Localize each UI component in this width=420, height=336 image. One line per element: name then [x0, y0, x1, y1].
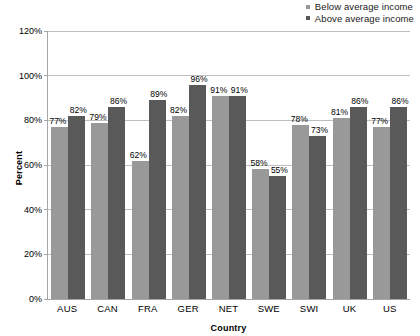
bar-can-above-average[interactable]: 86% [108, 107, 125, 299]
bar-ger-above-average[interactable]: 96% [189, 85, 206, 299]
bars-layer: 77%82%79%86%62%89%82%96%91%91%58%55%78%7… [48, 31, 410, 299]
legend-swatch-below-average-income [306, 5, 310, 9]
bar-ger-below-average[interactable]: 82% [172, 116, 189, 299]
bar-value-label: 58% [250, 158, 267, 168]
bar-group-swe: 58%55% [249, 31, 289, 299]
x-axis-label-ger: GER [168, 303, 208, 314]
y-axis-tick-label: 80% [24, 115, 42, 125]
bar-value-label: 55% [271, 165, 288, 175]
bar-aus-above-average[interactable]: 82% [68, 116, 85, 299]
x-axis-tick-labels: AUSCANFRAGERNETSWESWIUKUS [47, 303, 410, 314]
bar-net-above-average[interactable]: 91% [229, 96, 246, 299]
bar-value-label: 62% [130, 150, 147, 160]
bar-group-ger: 82%96% [169, 31, 209, 299]
plot-area-wrapper: 0%20%40%60%80%100%120% 77%82%79%86%62%89… [47, 31, 410, 300]
x-axis-label-net: NET [208, 303, 248, 314]
bar-value-label: 91% [231, 85, 248, 95]
bar-swi-below-average[interactable]: 78% [292, 125, 309, 299]
bar-value-label: 78% [291, 114, 308, 124]
bar-value-label: 86% [392, 96, 409, 106]
plot-area: 0%20%40%60%80%100%120% 77%82%79%86%62%89… [47, 31, 410, 300]
bar-group-aus: 77%82% [48, 31, 88, 299]
bar-group-uk: 81%86% [330, 31, 370, 299]
legend-item-below-average-income[interactable]: Below average income [306, 2, 413, 12]
bar-aus-below-average[interactable]: 77% [51, 127, 68, 299]
bar-net-below-average[interactable]: 91% [212, 96, 229, 299]
y-axis-tick-label: 120% [19, 26, 42, 36]
bar-value-label: 86% [351, 96, 368, 106]
x-axis-title: Country [47, 323, 410, 333]
bar-group-net: 91%91% [209, 31, 249, 299]
y-axis-tick-label: 20% [24, 249, 42, 259]
bar-value-label: 81% [331, 107, 348, 117]
bar-chart: Below average income Above average incom… [0, 0, 420, 336]
y-axis-tick-label: 40% [24, 205, 42, 215]
bar-group-us: 77%86% [370, 31, 410, 299]
bar-fra-above-average[interactable]: 89% [149, 100, 166, 299]
bar-value-label: 89% [150, 89, 167, 99]
x-axis-label-us: US [370, 303, 410, 314]
legend-swatch-above-average-income [306, 16, 310, 20]
bar-swe-below-average[interactable]: 58% [252, 169, 269, 299]
y-axis-tick-label: 60% [24, 160, 42, 170]
chart-legend: Below average income Above average incom… [306, 2, 414, 23]
bar-value-label: 77% [371, 116, 388, 126]
bar-us-above-average[interactable]: 86% [390, 107, 407, 299]
legend-label-above-average-income: Above average income [315, 14, 414, 24]
y-axis-tick-label: 0% [29, 294, 42, 304]
bar-value-label: 82% [170, 105, 187, 115]
x-axis-label-can: CAN [87, 303, 127, 314]
x-axis-label-aus: AUS [47, 303, 87, 314]
x-axis-label-swe: SWE [249, 303, 289, 314]
bar-can-below-average[interactable]: 79% [91, 123, 108, 299]
y-axis-tick-label: 100% [19, 71, 42, 81]
bar-uk-below-average[interactable]: 81% [333, 118, 350, 299]
bar-group-swi: 78%73% [289, 31, 329, 299]
bar-us-below-average[interactable]: 77% [373, 127, 390, 299]
x-axis-label-fra: FRA [128, 303, 168, 314]
y-axis-title: Percent [14, 151, 24, 185]
x-axis-label-uk: UK [329, 303, 369, 314]
bar-group-fra: 62%89% [128, 31, 168, 299]
bar-uk-above-average[interactable]: 86% [350, 107, 367, 299]
bar-value-label: 86% [110, 96, 127, 106]
bar-value-label: 91% [210, 85, 227, 95]
legend-item-above-average-income[interactable]: Above average income [306, 14, 414, 24]
bar-value-label: 73% [311, 125, 328, 135]
legend-label-below-average-income: Below average income [315, 2, 413, 12]
bar-value-label: 96% [190, 74, 207, 84]
bar-group-can: 79%86% [88, 31, 128, 299]
bar-value-label: 79% [90, 112, 107, 122]
bar-fra-below-average[interactable]: 62% [132, 161, 149, 299]
bar-value-label: 77% [49, 116, 66, 126]
bar-swi-above-average[interactable]: 73% [309, 136, 326, 299]
x-axis-label-swi: SWI [289, 303, 329, 314]
bar-value-label: 82% [70, 105, 87, 115]
bar-swe-above-average[interactable]: 55% [269, 176, 286, 299]
